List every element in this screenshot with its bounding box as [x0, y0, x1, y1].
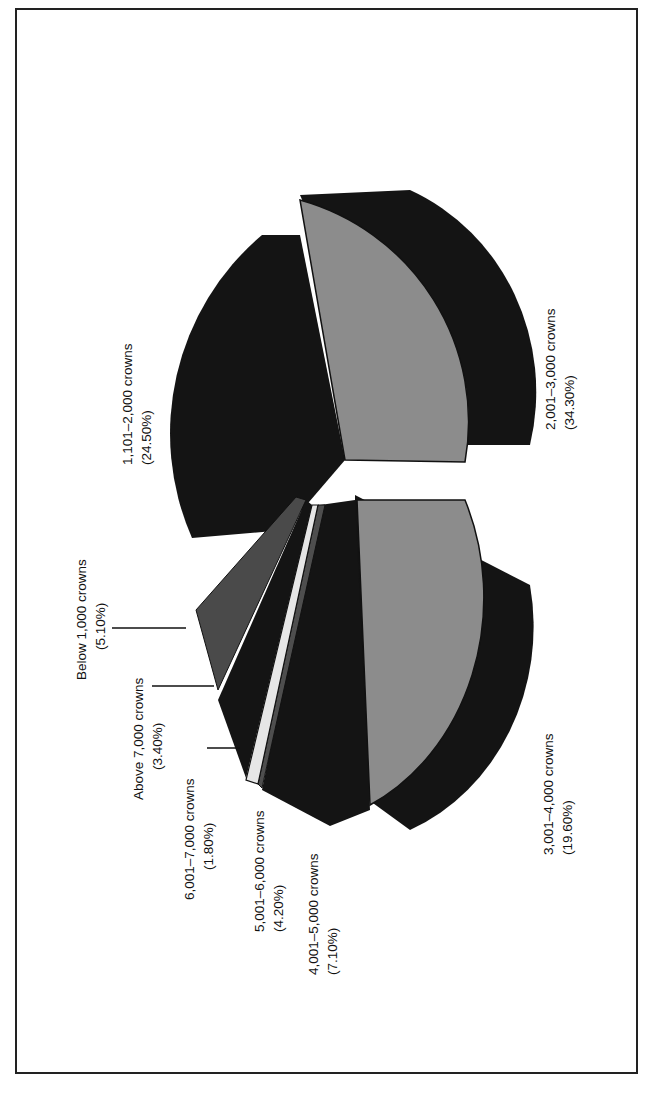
svg-text:(5.10%): (5.10%)	[93, 603, 108, 650]
svg-text:(7.10%): (7.10%)	[325, 928, 340, 975]
svg-text:1,101–2,000 crowns: 1,101–2,000 crowns	[120, 343, 135, 465]
svg-text:Above 7,000 crowns: Above 7,000 crowns	[131, 677, 146, 800]
svg-text:6,001–7,000 crowns: 6,001–7,000 crowns	[182, 778, 197, 900]
svg-text:5,001–6,000 crowns: 5,001–6,000 crowns	[252, 810, 267, 932]
label-1101-2000: 1,101–2,000 crowns (24.50%)	[120, 343, 154, 465]
svg-text:(4.20%): (4.20%)	[271, 885, 286, 932]
label-5001-6000: 5,001–6,000 crowns (4.20%)	[252, 810, 286, 932]
pie-slices	[170, 190, 536, 830]
svg-text:(1.80%): (1.80%)	[201, 823, 216, 870]
svg-text:Below 1,000 crowns: Below 1,000 crowns	[74, 559, 89, 680]
svg-text:4,001–5,000 crowns: 4,001–5,000 crowns	[306, 853, 321, 975]
svg-text:(34.30%): (34.30%)	[562, 375, 577, 430]
svg-text:3,001–4,000 crowns: 3,001–4,000 crowns	[541, 733, 556, 855]
label-2001-3000: 2,001–3,000 crowns (34.30%)	[543, 308, 577, 430]
label-4001-5000: 4,001–5,000 crowns (7.10%)	[306, 853, 340, 975]
svg-text:(24.50%): (24.50%)	[139, 410, 154, 465]
label-3001-4000: 3,001–4,000 crowns (19.60%)	[541, 733, 575, 855]
label-6001-7000: 6,001–7,000 crowns (1.80%)	[182, 778, 216, 900]
svg-text:2,001–3,000 crowns: 2,001–3,000 crowns	[543, 308, 558, 430]
svg-text:(3.40%): (3.40%)	[150, 723, 165, 770]
pie-chart: 2,001–3,000 crowns (34.30%) 3,001–4,000 …	[0, 0, 651, 1099]
svg-text:(19.60%): (19.60%)	[560, 800, 575, 855]
label-below-1000: Below 1,000 crowns (5.10%)	[74, 559, 108, 680]
label-above-7000: Above 7,000 crowns (3.40%)	[131, 677, 165, 800]
